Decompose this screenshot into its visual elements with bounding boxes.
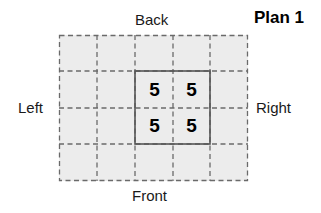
back-label: Back bbox=[135, 11, 168, 28]
plan-title: Plan 1 bbox=[254, 8, 304, 28]
cell-value: 5 bbox=[173, 72, 210, 108]
right-label: Right bbox=[256, 99, 291, 116]
cell-value: 5 bbox=[136, 108, 173, 144]
front-label: Front bbox=[132, 187, 167, 204]
plan-grid: 5 5 5 5 bbox=[59, 35, 248, 181]
cell-value: 5 bbox=[173, 108, 210, 144]
cell-value: 5 bbox=[136, 72, 173, 108]
left-label: Left bbox=[18, 99, 43, 116]
